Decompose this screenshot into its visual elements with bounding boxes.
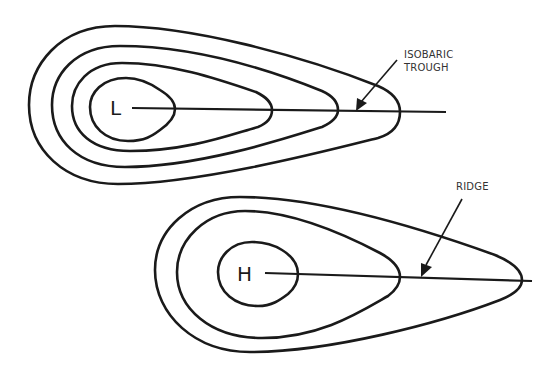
isobar-diagram: L ISOBARIC TROUGH H RIDGE [0,0,559,372]
trough-annotation-line1: ISOBARIC [404,49,453,60]
low-center-label: L [110,96,122,120]
high-center-label: H [237,262,252,286]
low-isobar-4 [29,26,400,184]
low-pressure-system: L ISOBARIC TROUGH [29,26,453,184]
low-isobar-1 [90,78,175,141]
trough-annotation-line2: TROUGH [403,62,449,73]
ridge-arrow-icon [421,199,462,277]
low-isobar-2 [72,63,272,151]
high-pressure-system: H RIDGE [155,181,532,352]
ridge-annotation: RIDGE [456,181,489,192]
low-isobar-3 [52,46,338,167]
